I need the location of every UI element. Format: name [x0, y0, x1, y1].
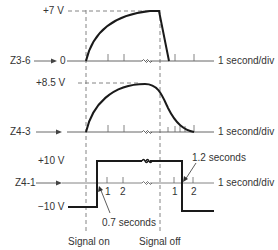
- z4-1-name: Z4-1: [15, 177, 36, 188]
- arrow-head-icon: [56, 181, 62, 186]
- delay-on-label: 0.7 seconds: [102, 217, 156, 228]
- signal-on-label: Signal on: [68, 236, 110, 247]
- tick-label-off-1: 1: [172, 186, 178, 197]
- signal-off-label: Signal off: [139, 236, 181, 247]
- tick-label-off-2: 2: [191, 186, 197, 197]
- delay-off-pointer: [185, 163, 196, 180]
- delay-off-label: 1.2 seconds: [192, 152, 246, 163]
- timing-diagram: [0, 0, 278, 250]
- tick-label-on-1: 1: [105, 186, 111, 197]
- z4-1-high-label: +10 V: [38, 155, 64, 166]
- z3-6-timescale: 1 second/div: [218, 55, 274, 66]
- arrow-head-icon: [98, 186, 103, 192]
- tick-label-on-2: 2: [120, 186, 126, 197]
- z4-1-ticks: [107, 177, 193, 183]
- z4-1-timescale: 1 second/div: [218, 177, 274, 188]
- z3-6-name: Z3-6: [10, 55, 31, 66]
- z3-6-peak-label: +7 V: [43, 5, 64, 16]
- z4-3-waveform: [86, 84, 194, 132]
- z4-3-peak-label: +8.5 V: [36, 77, 65, 88]
- z4-3-timescale: 1 second/div: [218, 126, 274, 137]
- arrow-head-icon: [51, 59, 57, 64]
- z3-6-waveform: [86, 11, 169, 61]
- z3-6-baseline-label: 0: [60, 55, 66, 66]
- z4-3-name: Z4-3: [10, 126, 31, 137]
- arrow-head-icon: [56, 130, 62, 135]
- z3-6-ticks: [108, 54, 194, 61]
- z4-1-low-label: −10 V: [38, 201, 64, 212]
